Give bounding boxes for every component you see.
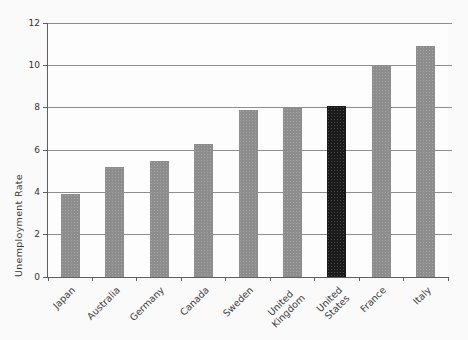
y-tick-mark-2 bbox=[43, 234, 48, 235]
bar-japan bbox=[61, 194, 80, 277]
bar-australia bbox=[105, 167, 124, 277]
y-tick-label-4: 4 bbox=[2, 187, 40, 198]
x-tick-label-text: Sweden bbox=[221, 285, 255, 319]
x-tick-mark-1 bbox=[92, 277, 93, 281]
x-tick-mark-0 bbox=[48, 277, 49, 281]
bar-united-kingdom bbox=[283, 108, 302, 277]
x-tick-label-text: Italy bbox=[411, 285, 433, 307]
bar-united-states bbox=[327, 106, 346, 277]
x-tick-mark-4 bbox=[225, 277, 226, 281]
bar-germany bbox=[150, 161, 169, 277]
x-tick-mark-2 bbox=[136, 277, 137, 281]
y-tick-label-0: 0 bbox=[2, 272, 40, 283]
unemployment-bar-chart: Unemployment Rate 024681012JapanAustrali… bbox=[0, 0, 468, 340]
bar-italy bbox=[416, 46, 435, 277]
y-tick-label-2: 2 bbox=[2, 229, 40, 240]
x-tick-label-text: France bbox=[359, 285, 389, 315]
bar-sweden bbox=[239, 110, 258, 277]
y-tick-mark-6 bbox=[43, 150, 48, 151]
x-tick-mark-5 bbox=[270, 277, 271, 281]
x-tick-mark-9 bbox=[448, 277, 449, 281]
gridline-y-12 bbox=[48, 23, 452, 24]
bar-canada bbox=[194, 144, 213, 277]
y-tick-label-12: 12 bbox=[2, 18, 40, 29]
x-tick-label-text: Germany bbox=[128, 285, 166, 323]
x-tick-mark-3 bbox=[181, 277, 182, 281]
y-tick-label-8: 8 bbox=[2, 102, 40, 113]
gridline-y-10 bbox=[48, 65, 452, 66]
gridline-y-8 bbox=[48, 107, 452, 108]
y-tick-mark-4 bbox=[43, 192, 48, 193]
y-tick-mark-12 bbox=[43, 23, 48, 24]
y-tick-label-6: 6 bbox=[2, 145, 40, 156]
y-tick-mark-10 bbox=[43, 65, 48, 66]
y-tick-label-10: 10 bbox=[2, 60, 40, 71]
x-tick-label-text: Australia bbox=[85, 285, 122, 322]
bar-france bbox=[372, 65, 391, 277]
x-tick-label-text: United States bbox=[315, 285, 352, 322]
x-tick-label-text: Japan bbox=[51, 285, 77, 311]
x-tick-mark-7 bbox=[359, 277, 360, 281]
x-tick-mark-8 bbox=[403, 277, 404, 281]
y-tick-mark-8 bbox=[43, 107, 48, 108]
plot-area: 024681012JapanAustraliaGermanyCanadaSwed… bbox=[47, 23, 448, 278]
x-tick-mark-6 bbox=[314, 277, 315, 281]
x-tick-label-text: Canada bbox=[178, 285, 211, 318]
x-tick-label-japan: Japan bbox=[0, 285, 78, 340]
